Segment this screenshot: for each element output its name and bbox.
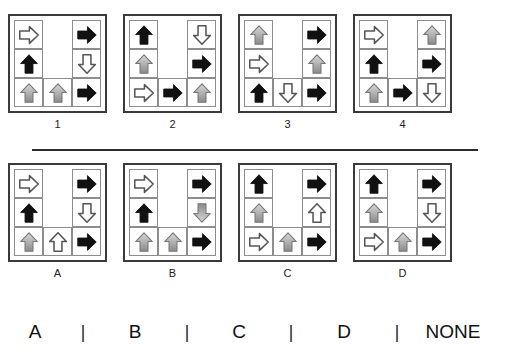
answer-choice-c[interactable]: C	[200, 321, 278, 343]
gray-up-arrow-icon	[421, 24, 443, 46]
matrix-cell	[244, 169, 273, 198]
matrix-cell	[72, 20, 101, 49]
white-right-arrow-icon	[133, 82, 155, 104]
matrix-cell	[359, 198, 388, 227]
matrix-cell	[244, 198, 273, 227]
matrix-cell	[273, 78, 302, 107]
matrix-cell	[417, 169, 446, 198]
gray-up-arrow-icon	[133, 231, 155, 253]
matrix-cell	[43, 227, 72, 256]
matrix-cell	[244, 20, 273, 49]
matrix-cell-empty	[388, 20, 417, 49]
matrix-cell	[187, 20, 216, 49]
black-right-arrow-icon	[76, 24, 98, 46]
matrix-cell	[359, 169, 388, 198]
matrix-cell	[302, 20, 331, 49]
matrix-cell	[417, 20, 446, 49]
white-up-arrow-icon	[47, 231, 69, 253]
matrix-cell	[129, 20, 158, 49]
matrix-cell-empty	[158, 49, 187, 78]
matrix-cell	[43, 78, 72, 107]
matrix-cell	[388, 227, 417, 256]
matrix-cell-empty	[43, 198, 72, 227]
black-right-arrow-icon	[191, 231, 213, 253]
answer-choice-none[interactable]: NONE	[410, 321, 496, 343]
white-right-arrow-icon	[18, 173, 40, 195]
question-panel-slot-1: 1	[0, 14, 115, 130]
matrix-cell-empty	[388, 198, 417, 227]
gray-down-arrow-icon	[191, 202, 213, 224]
matrix-cell-empty	[273, 20, 302, 49]
matrix-cell	[72, 198, 101, 227]
matrix-cell-empty	[43, 169, 72, 198]
question-panel-label: 2	[169, 118, 175, 130]
white-up-arrow-icon	[306, 202, 328, 224]
matrix-cell	[14, 20, 43, 49]
white-right-arrow-icon	[363, 24, 385, 46]
question-panel-slot-3: 3	[230, 14, 345, 130]
option-panel-slot-a[interactable]: A	[0, 163, 115, 279]
black-right-arrow-icon	[162, 82, 184, 104]
matrix-cell-empty	[158, 198, 187, 227]
answer-separator: |	[174, 321, 200, 343]
white-right-arrow-icon	[248, 53, 270, 75]
matrix-cell	[244, 49, 273, 78]
matrix-cell	[14, 49, 43, 78]
matrix-cell	[388, 78, 417, 107]
question-panel-4	[353, 14, 452, 113]
black-right-arrow-icon	[191, 173, 213, 195]
matrix-cell-empty	[388, 49, 417, 78]
option-panel-slot-d[interactable]: D	[345, 163, 460, 279]
matrix-cell	[72, 49, 101, 78]
option-panel-slot-b[interactable]: B	[115, 163, 230, 279]
matrix-cell	[302, 198, 331, 227]
white-down-arrow-icon	[76, 53, 98, 75]
black-up-arrow-icon	[248, 82, 270, 104]
matrix-cell	[129, 78, 158, 107]
matrix-cell	[14, 227, 43, 256]
black-right-arrow-icon	[421, 231, 443, 253]
matrix-cell-empty	[273, 49, 302, 78]
option-panel-label: D	[399, 267, 407, 279]
matrix-cell	[187, 198, 216, 227]
option-panel-a[interactable]	[8, 163, 107, 262]
gray-up-arrow-icon	[363, 202, 385, 224]
black-up-arrow-icon	[18, 53, 40, 75]
option-panel-label: B	[169, 267, 176, 279]
white-right-arrow-icon	[248, 231, 270, 253]
black-right-arrow-icon	[76, 173, 98, 195]
answer-choice-bar: A|B|C|D|NONE	[0, 312, 510, 352]
matrix-cell	[72, 78, 101, 107]
black-up-arrow-icon	[363, 173, 385, 195]
black-right-arrow-icon	[76, 82, 98, 104]
answer-choice-d[interactable]: D	[304, 321, 384, 343]
matrix-cell	[273, 227, 302, 256]
gray-up-arrow-icon	[47, 82, 69, 104]
section-divider	[32, 149, 478, 151]
matrix-cell	[244, 78, 273, 107]
black-right-arrow-icon	[306, 82, 328, 104]
question-panel-3	[238, 14, 337, 113]
answer-choice-a[interactable]: A	[0, 321, 70, 343]
gray-up-arrow-icon	[162, 231, 184, 253]
matrix-cell	[72, 227, 101, 256]
option-panel-b[interactable]	[123, 163, 222, 262]
matrix-cell-empty	[273, 169, 302, 198]
gray-up-arrow-icon	[363, 82, 385, 104]
matrix-cell	[302, 49, 331, 78]
matrix-cell	[417, 78, 446, 107]
gray-up-arrow-icon	[392, 231, 414, 253]
option-panel-c[interactable]	[238, 163, 337, 262]
matrix-cell	[244, 227, 273, 256]
option-panel-d[interactable]	[353, 163, 452, 262]
answer-choice-b[interactable]: B	[96, 321, 174, 343]
white-down-arrow-icon	[191, 24, 213, 46]
gray-up-arrow-icon	[18, 82, 40, 104]
matrix-cell-empty	[158, 20, 187, 49]
matrix-cell	[187, 227, 216, 256]
question-panel-2	[123, 14, 222, 113]
black-right-arrow-icon	[306, 231, 328, 253]
white-right-arrow-icon	[133, 173, 155, 195]
option-panel-slot-c[interactable]: C	[230, 163, 345, 279]
white-right-arrow-icon	[363, 231, 385, 253]
